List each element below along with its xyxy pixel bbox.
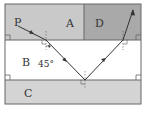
label-b: B — [22, 56, 30, 69]
label-a: A — [65, 17, 75, 30]
label-c: C — [24, 87, 32, 100]
region-d — [84, 4, 141, 40]
label-d: D — [95, 17, 104, 30]
refraction-diagram: P A D B C 45° — [0, 0, 146, 114]
angle-label: 45° — [38, 59, 54, 69]
label-p: P — [14, 16, 22, 29]
